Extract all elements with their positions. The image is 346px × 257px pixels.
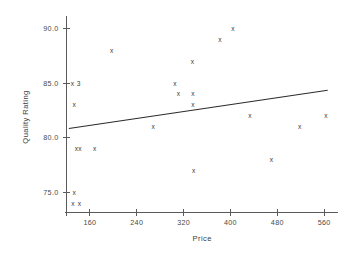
svg-text:x: x: [78, 200, 82, 207]
data-point-marker: x: [110, 47, 114, 54]
y-tick-label: 80.0: [43, 133, 58, 142]
scatter-plot-figure: 75.080.085.090.0160240320400480560PriceQ…: [0, 0, 346, 257]
svg-text:x: x: [177, 90, 181, 97]
svg-text:x: x: [71, 80, 75, 87]
svg-text:x: x: [152, 123, 156, 130]
data-point-marker: x: [218, 36, 222, 43]
svg-text:x: x: [173, 80, 177, 87]
x-tick-label: 400: [224, 218, 237, 227]
x-axis-title: Price: [193, 234, 212, 243]
plot-canvas: 75.080.085.090.0160240320400480560PriceQ…: [0, 0, 346, 257]
x-tick-label: 160: [83, 218, 96, 227]
data-point-count-label: 3: [77, 80, 81, 87]
data-point-marker: x: [324, 112, 328, 119]
svg-text:x: x: [78, 145, 82, 152]
svg-text:x: x: [324, 112, 328, 119]
y-axis-title: Quality Rating: [21, 90, 30, 143]
data-point-marker: x: [231, 25, 235, 32]
svg-text:x: x: [218, 36, 222, 43]
y-tick-label: 90.0: [43, 24, 58, 33]
y-tick-label: 85.0: [43, 79, 58, 88]
svg-text:x: x: [71, 200, 75, 207]
svg-text:x: x: [192, 167, 196, 174]
data-point-marker: x: [177, 90, 181, 97]
svg-text:x: x: [72, 101, 76, 108]
svg-text:x: x: [298, 123, 302, 130]
data-point-marker: x: [191, 90, 195, 97]
data-point-marker: x: [191, 101, 195, 108]
data-point-marker: x: [191, 58, 195, 65]
data-point-marker: x: [152, 123, 156, 130]
svg-text:x: x: [110, 47, 114, 54]
y-tick-label: 75.0: [43, 188, 58, 197]
svg-text:x: x: [72, 189, 76, 196]
svg-text:x: x: [93, 145, 97, 152]
svg-text:x: x: [231, 25, 235, 32]
data-point-marker: x: [298, 123, 302, 130]
data-point-marker: x: [78, 145, 82, 152]
data-point-marker: x3: [71, 80, 81, 87]
x-tick-label: 240: [130, 218, 143, 227]
svg-text:x: x: [191, 58, 195, 65]
data-point-marker: x: [71, 200, 75, 207]
svg-text:x: x: [191, 101, 195, 108]
x-tick-label: 560: [318, 218, 331, 227]
x-tick-label: 320: [177, 218, 190, 227]
data-point-marker: x: [270, 156, 274, 163]
data-point-marker: x: [192, 167, 196, 174]
data-point-marker: x: [93, 145, 97, 152]
data-point-marker: x: [72, 101, 76, 108]
svg-text:x: x: [248, 112, 252, 119]
data-point-marker: x: [248, 112, 252, 119]
regression-fit-line: [69, 90, 328, 128]
data-point-marker: x: [173, 80, 177, 87]
svg-text:x: x: [270, 156, 274, 163]
x-tick-label: 480: [271, 218, 284, 227]
svg-text:x: x: [191, 90, 195, 97]
data-point-marker: x: [78, 200, 82, 207]
data-point-marker: x: [72, 189, 76, 196]
